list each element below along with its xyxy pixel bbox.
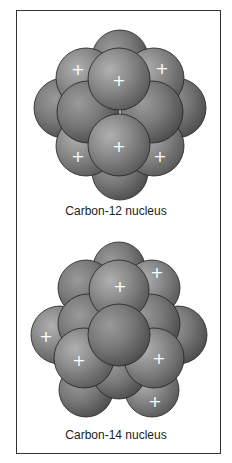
carbon-12-nucleus-diagram: + + + + + + <box>0 0 232 230</box>
neutron <box>88 304 150 366</box>
carbon-12-caption: Carbon-12 nucleus <box>0 204 232 218</box>
carbon-14-nucleus-diagram: + + + + + + <box>0 230 232 430</box>
plus-icon: + <box>153 147 166 166</box>
plus-icon: + <box>150 263 163 282</box>
plus-icon: + <box>39 327 52 346</box>
plus-icon: + <box>71 60 84 79</box>
plus-icon: + <box>71 147 84 166</box>
plus-icon: + <box>72 351 85 370</box>
plus-icon: + <box>113 277 126 296</box>
plus-icon: + <box>152 349 165 368</box>
plus-icon: + <box>112 71 125 90</box>
carbon-14-caption: Carbon-14 nucleus <box>0 428 232 442</box>
plus-icon: + <box>148 392 161 411</box>
plus-icon: + <box>112 137 125 156</box>
plus-icon: + <box>155 59 168 78</box>
